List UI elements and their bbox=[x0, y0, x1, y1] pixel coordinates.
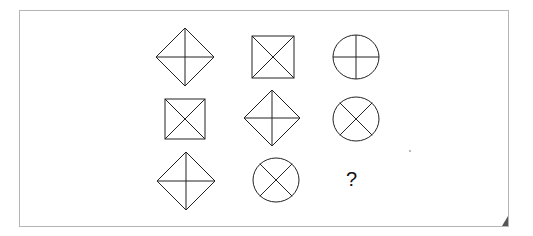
speck bbox=[409, 150, 411, 152]
corner-fold-icon bbox=[502, 216, 508, 226]
cell-2-1-circle bbox=[253, 158, 299, 202]
cell-1-1-diamond bbox=[244, 90, 300, 146]
cell-0-0-diamond bbox=[156, 28, 214, 86]
cell-1-0-square bbox=[165, 99, 205, 139]
cell-0-1-square bbox=[252, 36, 294, 78]
cell-1-2-circle bbox=[333, 97, 379, 141]
puzzle-canvas: ? bbox=[0, 0, 533, 236]
cell-2-0-diamond bbox=[157, 152, 215, 210]
cell-0-2-circle bbox=[333, 35, 379, 79]
question-mark: ? bbox=[346, 169, 357, 189]
puzzle-figure bbox=[0, 0, 533, 236]
